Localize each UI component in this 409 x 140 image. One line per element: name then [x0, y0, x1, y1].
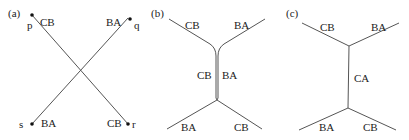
point-r-label: r — [132, 118, 136, 130]
edge-label-middle: CA — [354, 72, 369, 84]
panel-c-label: (c) — [286, 7, 299, 20]
point-s-dot — [30, 122, 34, 126]
edge-label-top-right: BA — [234, 19, 249, 31]
edge-label-bottom-right: CB — [107, 117, 122, 129]
edge-label-top-left: CB — [185, 19, 200, 31]
point-s-label: s — [19, 118, 23, 130]
point-q-dot — [128, 17, 132, 21]
edge-label-top-right: BA — [371, 21, 386, 33]
edge-label-bottom-left: BA — [319, 121, 334, 133]
edge-label-middle-right: BA — [222, 69, 237, 81]
edge-label-bottom-left: BA — [41, 117, 56, 129]
edge-label-middle-left: CB — [197, 69, 212, 81]
edge-label-top-right: BA — [106, 16, 121, 28]
edge-ba-upper — [217, 19, 265, 100]
panel-a: (a) p q r s CB BA BA CB — [8, 7, 140, 130]
edge-cb-upper — [169, 19, 217, 100]
edge-label-top-left: CB — [40, 16, 55, 28]
point-q-label: q — [134, 19, 140, 31]
edge-label-bottom-left: BA — [181, 121, 196, 133]
panel-b: (b) CB BA CB BA BA CB — [151, 7, 265, 133]
point-p-dot — [30, 13, 34, 17]
edge-label-bottom-right: CB — [234, 121, 249, 133]
edge-ca-middle — [348, 46, 349, 108]
panel-c: (c) CB BA CA BA CB — [286, 7, 399, 133]
point-p-label: p — [27, 19, 33, 31]
point-r-dot — [126, 122, 130, 126]
edge-label-bottom-right: CB — [363, 121, 378, 133]
diagram-canvas: (a) p q r s CB BA BA CB (b) CB BA CB BA … — [0, 0, 409, 140]
panel-a-label: (a) — [8, 7, 21, 20]
edge-label-top-left: CB — [320, 21, 335, 33]
panel-b-label: (b) — [151, 7, 164, 20]
